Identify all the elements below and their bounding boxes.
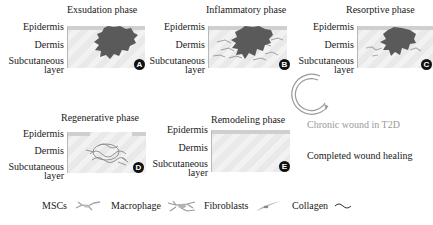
phase-d-label-layer: layer — [0, 170, 64, 182]
phase-b-title: Inflammatory phase — [206, 4, 286, 15]
completed-healing-label: Completed wound healing — [307, 150, 413, 161]
legend-collagen-label: Collagen — [292, 200, 328, 211]
fibroblast-icon — [254, 199, 282, 213]
phase-c-label-dermis: Dermis — [290, 39, 354, 51]
epidermis-band — [212, 130, 290, 134]
chronic-cycle-arrow-icon — [288, 70, 336, 122]
phase-b-label-dermis: Dermis — [138, 39, 205, 51]
wound-with-macrophages-icon — [209, 26, 287, 68]
phase-d-label-dermis: Dermis — [0, 145, 64, 157]
phase-a-label-dermis: Dermis — [0, 39, 64, 51]
chronic-wound-label: Chronic wound in T2D — [307, 119, 400, 130]
msc-cell-icon — [74, 199, 102, 213]
phase-e-title: Remodeling phase — [211, 114, 285, 125]
collagen-wave-icon — [334, 201, 352, 211]
legend-fibroblast-label: Fibroblasts — [204, 200, 248, 211]
phase-d-title: Regenerative phase — [61, 112, 139, 123]
phase-c-badge: C — [421, 59, 432, 70]
phase-d-label-epidermis: Epidermis — [0, 128, 64, 140]
phase-c-title: Resorptive phase — [346, 4, 415, 15]
phase-e-label-dermis: Dermis — [140, 142, 208, 154]
phase-c-label-epidermis: Epidermis — [290, 21, 354, 33]
phase-b-skin-panel — [208, 26, 287, 68]
phase-a-title: Exsudation phase — [67, 4, 137, 15]
phase-b-label-epidermis: Epidermis — [138, 21, 205, 33]
phase-a-label-epidermis: Epidermis — [0, 21, 64, 33]
phase-e-label-layer: layer — [140, 167, 208, 179]
legend-macrophage-label: Macrophage — [111, 200, 161, 211]
phase-e-label-epidermis: Epidermis — [140, 124, 208, 136]
legend-msc-label: MSCs — [42, 200, 67, 211]
phase-a-skin-panel — [67, 26, 145, 68]
phase-b-label-layer: layer — [138, 64, 205, 76]
phase-e-badge: E — [279, 161, 290, 172]
phase-a-label-layer: layer — [0, 64, 64, 76]
macrophage-icon — [167, 199, 197, 213]
phase-b-badge: B — [279, 59, 290, 70]
